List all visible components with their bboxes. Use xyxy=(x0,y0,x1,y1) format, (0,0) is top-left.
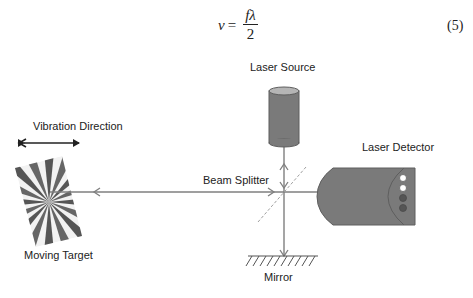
indicator-light-3 xyxy=(400,195,407,202)
laser-source-label: Laser Source xyxy=(250,61,315,73)
beam-splitter-label: Beam Splitter xyxy=(203,174,269,186)
vibration-direction-label: Vibration Direction xyxy=(33,120,123,132)
moving-target-label: Moving Target xyxy=(24,249,93,261)
laser-detector-icon xyxy=(317,168,415,225)
indicator-light-4 xyxy=(400,205,407,212)
laser-source-icon xyxy=(269,87,299,147)
laser-detector-label: Laser Detector xyxy=(362,141,434,153)
moving-target-icon xyxy=(0,142,109,262)
vertical-beam xyxy=(280,145,288,256)
mirror-icon xyxy=(246,256,318,266)
horizontal-beam xyxy=(50,188,320,196)
mirror-label: Mirror xyxy=(264,271,293,283)
indicator-light-1 xyxy=(400,175,407,182)
vibration-direction-arrow xyxy=(19,139,79,147)
indicator-light-2 xyxy=(400,185,407,192)
